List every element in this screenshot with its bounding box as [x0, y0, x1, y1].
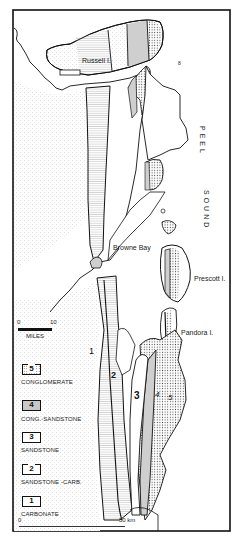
small-mark-label: 8: [178, 60, 181, 66]
unit-label-5: 5: [168, 393, 172, 402]
browne-bay-label: Browne Bay: [113, 244, 151, 251]
miles-scale-start: 0: [17, 319, 20, 325]
km-scale-line: [19, 526, 125, 527]
miles-scale-unit: MILES: [26, 333, 44, 339]
legend-swatch-sandstone-carb: 2: [22, 464, 41, 475]
legend-label-conglomerate: CONGLOMERATE: [21, 379, 73, 385]
prescott-island-label: Prescott I.: [194, 275, 226, 282]
km-scale-start: 0: [18, 517, 21, 523]
legend-label-sandstone: SANDSTONE: [21, 447, 59, 453]
miles-scale-end: 10: [50, 319, 57, 325]
miles-scale-line: [18, 328, 52, 331]
legend-label-carbonate: CARBONATE: [21, 511, 59, 517]
unit-label-3: 3: [134, 390, 140, 401]
geologic-map: [0, 0, 244, 539]
legend-swatch-cong-sandstone: 4: [22, 400, 41, 411]
legend-swatch-sandstone: 3: [22, 432, 41, 443]
legend-label-sandstone-carb: SANDSTONE -CARB.: [21, 479, 82, 485]
legend-swatch-conglomerate: 5: [22, 364, 41, 375]
pandora-island-label: Pandora I.: [181, 329, 213, 336]
legend-label-cong-sandstone: CONG.-SANDSTONE: [21, 416, 81, 422]
sound-label: SOUND: [203, 190, 210, 230]
russell-island-label: Russell I.: [82, 57, 111, 64]
legend-swatch-carbonate: 1: [22, 496, 41, 507]
peel-label: PEEL: [199, 126, 206, 156]
unit-label-1: 1: [89, 346, 94, 356]
km-scale-end: 50 km: [119, 517, 135, 523]
unit-label-4: 4: [155, 390, 159, 399]
unit-label-2: 2: [111, 370, 116, 380]
